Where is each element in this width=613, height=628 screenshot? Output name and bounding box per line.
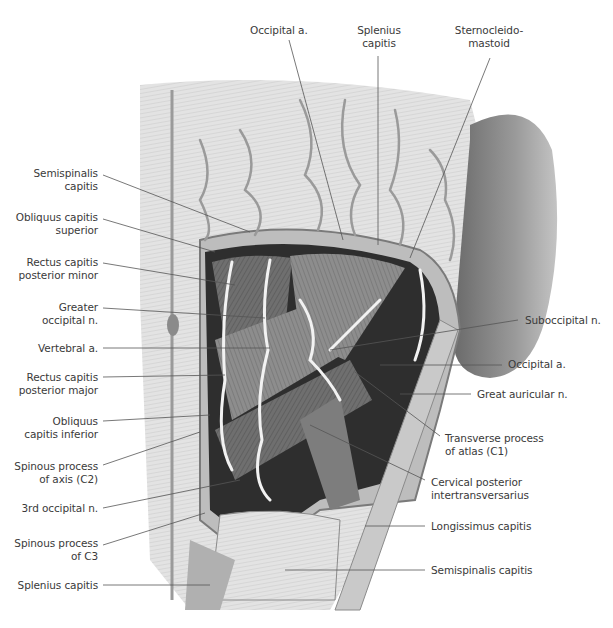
label-transverse-process-atlas: Transverse process of atlas (C1) [445,432,544,458]
label-semispinalis-capitis-right: Semispinalis capitis [431,564,532,577]
label-semispinalis-capitis-left: Semispinalis capitis [0,167,98,193]
anatomy-figure: Occipital a. Splenius capitis Sternoclei… [0,0,613,628]
label-cervical-posterior-intertransversarius: Cervical posterior intertransversarius [431,476,529,502]
label-great-auricular-n: Great auricular n. [477,388,568,401]
label-splenius-capitis-top: Splenius capitis [354,24,404,50]
label-sternocleidomastoid: Sternocleido- mastoid [446,24,532,50]
label-rectus-capitis-posterior-major: Rectus capitis posterior major [0,371,98,397]
label-greater-occipital-n: Greater occipital n. [0,301,98,327]
label-splenius-capitis-left: Splenius capitis [0,579,98,592]
label-spinous-process-axis: Spinous process of axis (C2) [0,460,98,486]
label-suboccipital-n: Suboccipital n. [525,314,601,327]
label-longissimus-capitis: Longissimus capitis [431,520,531,533]
label-vertebral-a: Vertebral a. [0,342,98,355]
label-obliquus-capitis-inferior: Obliquus capitis inferior [0,415,98,441]
label-obliquus-capitis-superior: Obliquus capitis superior [0,211,98,237]
label-3rd-occipital-n: 3rd occipital n. [0,502,98,515]
label-occipital-a-top: Occipital a. [250,24,306,37]
label-occipital-a-right: Occipital a. [508,358,566,371]
label-spinous-process-c3: Spinous process of C3 [0,537,98,563]
label-rectus-capitis-posterior-minor: Rectus capitis posterior minor [0,256,98,282]
